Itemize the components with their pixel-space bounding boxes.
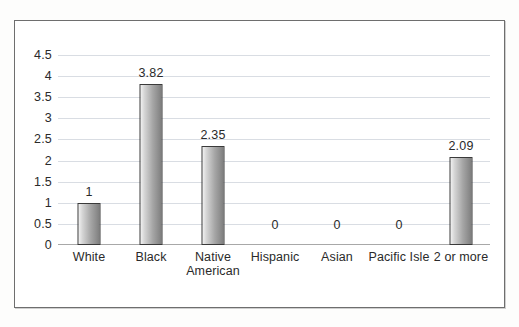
bar-value-black: 3.82 [138, 67, 163, 80]
x-label-line: 2 or more [425, 250, 497, 264]
bar-slot: 3.82 [120, 55, 182, 245]
y-tick-label: 0 [12, 239, 52, 252]
x-axis: White Black Native American Hispanic Asi… [58, 250, 490, 298]
y-tick-label: 0.5 [12, 218, 52, 231]
bar-slot: 1 [58, 55, 120, 245]
bar-value-2-or-more: 2.09 [448, 140, 473, 153]
bar-value-white: 1 [85, 186, 92, 199]
y-tick-label: 2 [12, 154, 52, 167]
page-background: 4.5 4 3.5 3 2.5 2 1.5 1 0.5 0 1 3.82 2. [0, 0, 519, 327]
bar-slot: 2.09 [430, 55, 492, 245]
bar-slot: 0 [306, 55, 368, 245]
bar-value-native-american: 2.35 [200, 129, 225, 142]
bar-value-pacific-isle: 0 [395, 219, 402, 232]
bar-slot: 0 [244, 55, 306, 245]
y-tick-label: 1 [12, 197, 52, 210]
y-axis: 4.5 4 3.5 3 2.5 2 1.5 1 0.5 0 [10, 55, 52, 245]
y-tick-label: 2.5 [12, 133, 52, 146]
bar-value-asian: 0 [333, 219, 340, 232]
bar-slot: 0 [368, 55, 430, 245]
y-tick-label: 4 [12, 70, 52, 83]
bar-2-or-more[interactable] [450, 157, 473, 245]
y-tick-label: 3.5 [12, 91, 52, 104]
bar-white[interactable] [78, 203, 101, 245]
x-label-line: American [177, 264, 249, 278]
plot-area: 1 3.82 2.35 0 0 0 2.09 [58, 55, 490, 245]
y-tick-label: 1.5 [12, 175, 52, 188]
x-label-2-or-more: 2 or more [425, 250, 497, 264]
bar-black[interactable] [140, 84, 163, 245]
y-tick-label: 4.5 [12, 49, 52, 62]
bar-slot: 2.35 [182, 55, 244, 245]
y-tick-label: 3 [12, 112, 52, 125]
bar-native-american[interactable] [202, 146, 225, 245]
bar-value-hispanic: 0 [271, 219, 278, 232]
